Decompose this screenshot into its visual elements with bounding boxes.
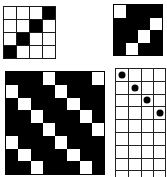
grid-cell — [80, 98, 92, 111]
grid-cell — [138, 30, 150, 43]
grid-cell — [67, 149, 79, 162]
grid-cell — [128, 132, 141, 145]
grid-cell — [115, 158, 128, 171]
grid-cell — [141, 170, 154, 177]
grid-cell — [128, 170, 141, 177]
grid-cell — [6, 98, 18, 111]
grid-cell — [42, 32, 56, 46]
grid-cell — [80, 123, 92, 136]
grid-cell — [115, 81, 128, 94]
grid-cell — [6, 136, 18, 149]
grid-cell — [153, 94, 166, 107]
grid-cell — [43, 98, 55, 111]
grid-cell — [16, 32, 30, 46]
grid-cell — [31, 161, 43, 174]
grid-cell — [138, 18, 150, 31]
grid-cell — [16, 19, 30, 33]
grid-cell — [55, 110, 67, 123]
grid-cell — [29, 6, 43, 20]
grid-cell — [55, 123, 67, 136]
dot-icon — [144, 97, 151, 104]
grid-cell — [114, 43, 126, 56]
grid-top-left — [3, 6, 55, 58]
grid-cell — [126, 43, 138, 56]
grid-cell — [126, 5, 138, 18]
grid-cell — [115, 68, 128, 81]
grid-cell — [67, 110, 79, 123]
grid-cell — [128, 94, 141, 107]
grid-cell — [42, 19, 56, 33]
grid-cell — [43, 149, 55, 162]
grid-cell — [3, 45, 17, 59]
grid-cell — [80, 161, 92, 174]
grid-cell — [153, 106, 166, 119]
grid-cell — [114, 18, 126, 31]
grid-cell — [6, 149, 18, 162]
grid-cell — [92, 123, 104, 136]
grid-bottom-left — [5, 71, 105, 175]
grid-cell — [16, 6, 30, 20]
grid-cell — [141, 106, 154, 119]
grid-cell — [3, 6, 17, 20]
grid-cell — [67, 136, 79, 149]
grid-cell — [29, 45, 43, 59]
grid-cell — [55, 149, 67, 162]
grid-cell — [31, 123, 43, 136]
grid-cell — [18, 110, 30, 123]
grid-cell — [55, 85, 67, 98]
grid-cell — [43, 85, 55, 98]
grid-cell — [150, 43, 162, 56]
grid-cell — [80, 110, 92, 123]
grid-cell — [115, 106, 128, 119]
grid-cell — [55, 72, 67, 85]
grid-cell — [115, 145, 128, 158]
grid-cell — [141, 94, 154, 107]
grid-cell — [115, 119, 128, 132]
grid-cell — [92, 72, 104, 85]
grid-cell — [128, 145, 141, 158]
grid-cell — [31, 110, 43, 123]
grid-cell — [114, 30, 126, 43]
grid-cell — [6, 110, 18, 123]
grid-cell — [3, 19, 17, 33]
grid-cell — [18, 72, 30, 85]
grid-cell — [92, 161, 104, 174]
grid-cell — [18, 98, 30, 111]
grid-cell — [92, 136, 104, 149]
grid-cell — [18, 123, 30, 136]
grid-cell — [128, 158, 141, 171]
grid-cell — [43, 110, 55, 123]
grid-cell — [153, 170, 166, 177]
grid-cell — [126, 30, 138, 43]
grid-cell — [153, 119, 166, 132]
grid-cell — [128, 81, 141, 94]
grid-cell — [80, 72, 92, 85]
grid-cell — [126, 18, 138, 31]
grid-cell — [29, 32, 43, 46]
grid-cell — [92, 85, 104, 98]
grid-cell — [43, 161, 55, 174]
grid-cell — [153, 68, 166, 81]
dot-icon — [131, 84, 138, 91]
grid-cell — [67, 72, 79, 85]
grid-cell — [138, 5, 150, 18]
grid-cell — [115, 132, 128, 145]
grid-cell — [115, 94, 128, 107]
grid-cell — [6, 123, 18, 136]
grid-cell — [92, 98, 104, 111]
grid-cell — [115, 170, 128, 177]
grid-cell — [18, 149, 30, 162]
grid-cell — [6, 161, 18, 174]
grid-top-right — [113, 4, 163, 56]
grid-cell — [18, 85, 30, 98]
grid-cell — [141, 68, 154, 81]
grid-cell — [80, 85, 92, 98]
grid-cell — [29, 19, 43, 33]
grid-cell — [80, 136, 92, 149]
grid-cell — [31, 98, 43, 111]
grid-cell — [43, 72, 55, 85]
grid-cell — [43, 123, 55, 136]
grid-cell — [6, 85, 18, 98]
grid-cell — [138, 43, 150, 56]
grid-cell — [31, 85, 43, 98]
